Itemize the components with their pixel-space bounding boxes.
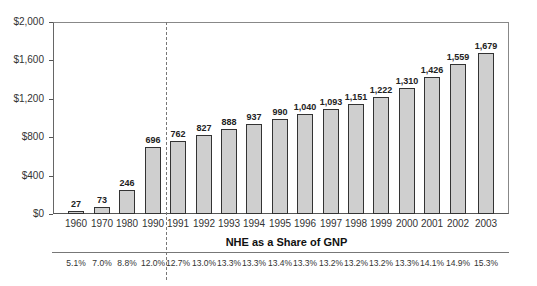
bar-value-label: 1,310 <box>387 76 427 86</box>
bar-value-label: 246 <box>107 178 147 188</box>
y-tick-mark <box>49 176 53 177</box>
x-tick-label: 2003 <box>471 218 501 229</box>
bar-1990 <box>145 147 161 214</box>
y-tick-mark <box>49 60 53 61</box>
share-table-title-text: NHE as a Share of GNP <box>226 236 348 248</box>
bar-1994 <box>246 124 262 214</box>
bar-1993 <box>221 129 237 214</box>
bar-1980 <box>119 190 135 214</box>
bar-2002 <box>450 64 466 214</box>
bar-value-label: 73 <box>82 195 122 205</box>
y-tick-mark <box>49 22 53 23</box>
y-tick-label: $1,200 <box>0 93 44 104</box>
bar-2000 <box>399 88 415 214</box>
y-tick-label: $0 <box>0 208 44 219</box>
bar-1991 <box>170 141 186 214</box>
bar-value-label: 1,426 <box>412 65 452 75</box>
bar-1960 <box>68 211 84 214</box>
bar-2001 <box>424 77 440 214</box>
y-tick-mark <box>49 99 53 100</box>
bar-1996 <box>297 114 313 214</box>
share-of-gnp-value: 14.9% <box>443 258 473 268</box>
bar-1999 <box>373 97 389 214</box>
x-tick-label: 2002 <box>443 218 473 229</box>
share-table-title: NHE as a Share of GNP <box>0 236 537 248</box>
y-tick-label: $1,600 <box>0 54 44 65</box>
nhe-bar-chart: NHE as a Share of GNP $0$400$800$1,200$1… <box>0 0 537 286</box>
bar-1998 <box>348 104 364 214</box>
bar-value-label: 1,559 <box>438 52 478 62</box>
bar-1995 <box>272 119 288 214</box>
y-tick-mark <box>49 137 53 138</box>
bar-1970 <box>94 207 110 214</box>
bar-1997 <box>323 109 339 214</box>
y-tick-label: $400 <box>0 170 44 181</box>
bar-1992 <box>196 135 212 214</box>
y-tick-label: $2,000 <box>0 16 44 27</box>
bar-2003 <box>478 53 494 214</box>
share-of-gnp-value: 15.3% <box>471 258 501 268</box>
bar-value-label: 1,679 <box>466 41 506 51</box>
y-tick-mark <box>49 214 53 215</box>
share-table-divider <box>52 252 509 253</box>
y-tick-label: $800 <box>0 131 44 142</box>
